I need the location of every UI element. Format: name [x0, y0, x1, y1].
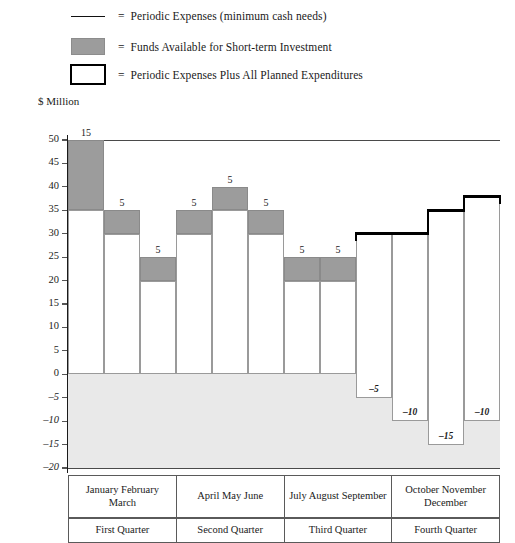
bar-september — [356, 234, 392, 398]
months-cell-0: January February March — [69, 476, 177, 517]
legend-equals-1: = — [118, 41, 125, 53]
bar-october — [392, 234, 428, 421]
y-tick-30 — [62, 233, 67, 234]
bar-july — [284, 281, 320, 375]
quarters-cell-2: Third Quarter — [285, 519, 393, 542]
outlined-box-swatch-icon — [62, 64, 114, 85]
quarters-cell-3: Fourth Quarter — [392, 519, 499, 542]
investment-band-february — [104, 210, 140, 233]
investment-band-may — [212, 187, 248, 210]
bar-march — [140, 281, 176, 375]
plan-line-top-november — [428, 209, 464, 212]
cash-flow-chart: –20–15–10–505101520253035404550 15555555… — [0, 110, 515, 542]
quarters-cell-0: First Quarter — [69, 519, 177, 542]
invest-value-label-april: 5 — [176, 197, 212, 208]
y-tick-label-15: 15 — [33, 297, 59, 308]
plan-line-top-december — [464, 195, 500, 198]
y-tick-0 — [62, 374, 67, 375]
quarters-row: First QuarterSecond QuarterThird Quarter… — [68, 518, 500, 543]
bar-november — [428, 210, 464, 444]
bar-january — [68, 210, 104, 374]
y-tick-label-50: 50 — [33, 133, 59, 144]
y-tick-50 — [62, 139, 67, 140]
y-tick-10 — [62, 327, 67, 328]
line-swatch-icon — [62, 16, 114, 17]
negative-value-label-december: –10 — [464, 407, 500, 417]
invest-value-label-august: 5 — [320, 244, 356, 255]
filled-box-swatch-icon — [62, 38, 114, 55]
y-tick--15 — [62, 444, 67, 445]
bar-june — [248, 234, 284, 375]
y-tick-label-25: 25 — [33, 250, 59, 261]
negative-value-label-november: –15 — [428, 431, 464, 441]
invest-value-label-may: 5 — [212, 174, 248, 185]
y-tick-label-45: 45 — [33, 156, 59, 167]
y-tick-label-40: 40 — [33, 180, 59, 191]
negative-value-label-october: –10 — [392, 407, 428, 417]
bar-may — [212, 210, 248, 374]
legend-label-2: Periodic Expenses Plus All Planned Expen… — [131, 69, 363, 81]
invest-value-label-march: 5 — [140, 244, 176, 255]
y-tick--10 — [62, 421, 67, 422]
investment-band-july — [284, 257, 320, 280]
y-tick-label-5: 5 — [33, 344, 59, 355]
legend-equals-2: = — [118, 69, 125, 81]
invest-value-label-july: 5 — [284, 244, 320, 255]
y-tick-15 — [62, 303, 67, 304]
y-tick-5 — [62, 350, 67, 351]
y-tick-label-30: 30 — [33, 227, 59, 238]
y-tick-label-10: 10 — [33, 320, 59, 331]
y-tick--5 — [62, 397, 67, 398]
y-tick-40 — [62, 186, 67, 187]
gridline-50 — [68, 140, 500, 141]
invest-value-label-february: 5 — [104, 197, 140, 208]
plan-line-top-october — [392, 232, 428, 235]
plan-line-start-cap — [355, 232, 358, 241]
bar-february — [104, 234, 140, 375]
bar-december — [464, 196, 500, 421]
bar-april — [176, 234, 212, 375]
y-tick-label-35: 35 — [33, 203, 59, 214]
legend-item-planned-expenditures: = Periodic Expenses Plus All Planned Exp… — [62, 64, 363, 85]
plan-line-end-cap — [499, 195, 502, 204]
investment-band-august — [320, 257, 356, 280]
y-tick-25 — [62, 257, 67, 258]
legend-label-0: Periodic Expenses (minimum cash needs) — [131, 10, 327, 22]
legend-equals-0: = — [118, 10, 125, 22]
y-tick-45 — [62, 163, 67, 164]
plan-line-step-november — [427, 209, 430, 235]
gridline-40 — [68, 186, 500, 187]
gridline-45 — [68, 163, 500, 164]
investment-band-march — [140, 257, 176, 280]
y-tick-label--5: –5 — [33, 391, 59, 402]
invest-value-label-june: 5 — [248, 197, 284, 208]
y-tick--20 — [62, 467, 67, 468]
y-tick-label--10: –10 — [33, 414, 59, 425]
y-tick-label--20: –20 — [33, 461, 59, 472]
months-cell-2: July August September — [285, 476, 393, 517]
y-tick-20 — [62, 280, 67, 281]
bar-august — [320, 281, 356, 375]
y-tick-label-20: 20 — [33, 274, 59, 285]
quarters-cell-1: Second Quarter — [177, 519, 285, 542]
legend-item-funds-available: = Funds Available for Short-term Investm… — [62, 38, 332, 55]
plan-line-top-september — [356, 232, 392, 235]
y-tick-label-0: 0 — [33, 367, 59, 378]
investment-band-june — [248, 210, 284, 233]
months-cell-1: April May June — [177, 476, 285, 517]
y-tick-label--15: –15 — [33, 438, 59, 449]
investment-band-april — [176, 210, 212, 233]
months-row: January February MarchApril May JuneJuly… — [68, 475, 500, 518]
negative-value-label-september: –5 — [356, 384, 392, 394]
y-tick-35 — [62, 210, 67, 211]
y-axis-title: $ Million — [38, 95, 79, 107]
legend-label-1: Funds Available for Short-term Investmen… — [131, 41, 332, 53]
months-cell-3: October November December — [392, 476, 499, 517]
chart-legend: = Periodic Expenses (minimum cash needs)… — [0, 0, 515, 92]
legend-item-periodic-expenses: = Periodic Expenses (minimum cash needs) — [62, 10, 327, 22]
investment-band-january — [68, 140, 104, 210]
invest-value-label-january: 15 — [68, 127, 104, 138]
plan-line-step-december — [463, 195, 466, 212]
